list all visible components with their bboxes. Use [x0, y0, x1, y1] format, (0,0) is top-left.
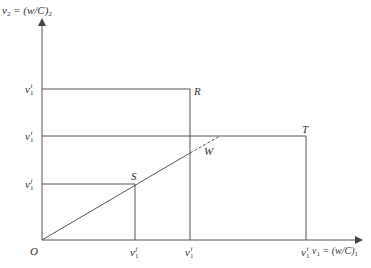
- diagram-canvas: [0, 0, 371, 268]
- x-tick-vt: v1t: [301, 246, 308, 260]
- point-s-label: S: [131, 171, 137, 182]
- y-tick-vj: v1j: [25, 178, 32, 192]
- x-tick-vj: v1j: [130, 246, 137, 260]
- origin-label: O: [30, 246, 38, 257]
- point-r-label: R: [194, 86, 201, 97]
- point-w-label: W: [204, 146, 213, 157]
- x-tick-vi: v1i: [185, 246, 192, 260]
- x-axis-label: v1 = (w/C)1: [312, 246, 358, 258]
- y-axis-label: v2 = (w/C)2: [2, 5, 52, 18]
- y-tick-vt: v1t: [25, 130, 32, 144]
- y-tick-vi: v1i: [25, 83, 32, 97]
- ray-solid: [42, 153, 190, 240]
- point-t-label: T: [302, 124, 308, 135]
